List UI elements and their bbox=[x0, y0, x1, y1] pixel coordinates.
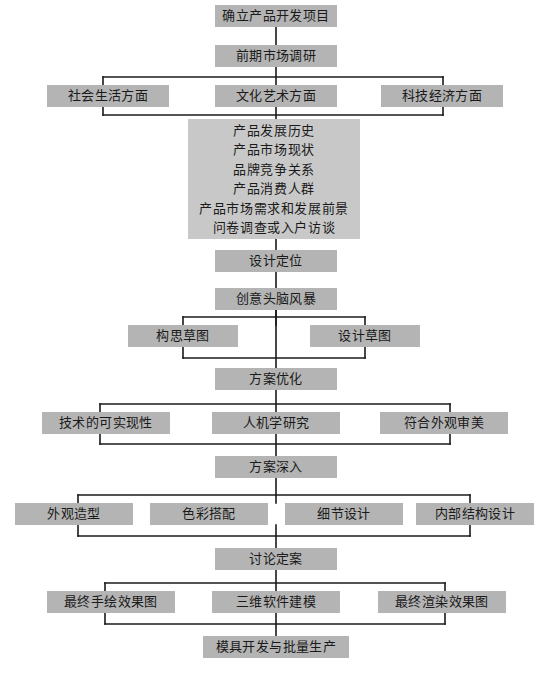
flow-node-n9a[interactable]: 技术的可实现性 bbox=[42, 412, 170, 434]
research-item: 品牌竞争关系 bbox=[188, 160, 360, 180]
flow-node-n3b[interactable]: 文化艺术方面 bbox=[215, 85, 337, 107]
flow-node-n7b[interactable]: 设计草图 bbox=[310, 325, 420, 347]
flow-node-n2[interactable]: 前期市场调研 bbox=[215, 45, 337, 67]
flow-node-n14[interactable]: 模具开发与批量生产 bbox=[203, 636, 349, 658]
flow-node-n11d[interactable]: 内部结构设计 bbox=[416, 503, 534, 525]
flow-node-n3a[interactable]: 社会生活方面 bbox=[47, 85, 169, 107]
flow-node-n13a[interactable]: 最终手绘效果图 bbox=[47, 591, 175, 613]
flow-node-n6[interactable]: 创意头脑风暴 bbox=[215, 288, 337, 310]
flow-node-n11c[interactable]: 细节设计 bbox=[285, 503, 403, 525]
flow-node-n11a[interactable]: 外观造型 bbox=[15, 503, 133, 525]
flow-node-n10[interactable]: 方案深入 bbox=[215, 456, 337, 478]
research-item: 产品市场现状 bbox=[188, 140, 360, 160]
flow-node-n5[interactable]: 设计定位 bbox=[215, 250, 337, 272]
research-item: 产品市场需求和发展前景 bbox=[188, 199, 360, 219]
flow-node-n4-research-items[interactable]: 产品发展历史产品市场现状品牌竞争关系产品消费人群产品市场需求和发展前景问卷调查或… bbox=[188, 119, 360, 239]
flow-node-n13c[interactable]: 最终渲染效果图 bbox=[378, 591, 506, 613]
flow-node-n1[interactable]: 确立产品开发项目 bbox=[215, 5, 337, 27]
flow-node-n13b[interactable]: 三维软件建模 bbox=[212, 591, 340, 613]
research-item: 问卷调查或入户访谈 bbox=[188, 218, 360, 238]
flow-node-n9c[interactable]: 符合外观审美 bbox=[380, 412, 508, 434]
research-item: 产品发展历史 bbox=[188, 121, 360, 141]
flow-node-n11b[interactable]: 色彩搭配 bbox=[150, 503, 268, 525]
flow-node-n9b[interactable]: 人机学研究 bbox=[212, 412, 340, 434]
flowchart-canvas: 确立产品开发项目前期市场调研社会生活方面文化艺术方面科技经济方面设计定位创意头脑… bbox=[0, 0, 546, 683]
flow-node-n8[interactable]: 方案优化 bbox=[215, 368, 337, 390]
flow-node-n7a[interactable]: 构思草图 bbox=[128, 325, 238, 347]
flow-node-n3c[interactable]: 科技经济方面 bbox=[381, 85, 503, 107]
flow-node-n12[interactable]: 讨论定案 bbox=[215, 548, 337, 570]
research-item: 产品消费人群 bbox=[188, 179, 360, 199]
